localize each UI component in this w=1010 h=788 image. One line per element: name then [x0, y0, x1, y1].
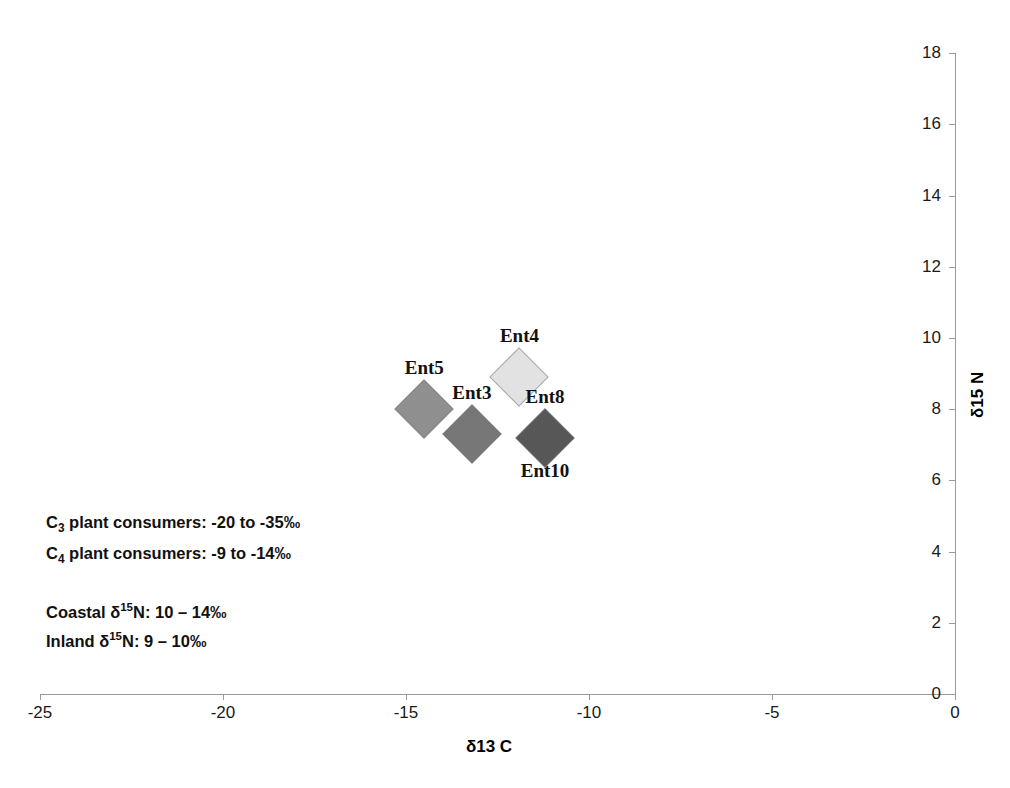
annotation-c3-prefix: C [46, 513, 58, 531]
y-tick-label: 0 [932, 684, 941, 704]
y-tick-mark [949, 694, 955, 695]
data-point-label: Ent5 [405, 357, 444, 379]
scatter-chart: -25-20-15-10-50024681012141618Ent5Ent4En… [0, 0, 1010, 788]
x-axis-line [40, 694, 956, 695]
x-axis-title-text: δ13 C [466, 737, 512, 756]
x-tick-mark [406, 694, 407, 700]
x-tick-label: -20 [211, 703, 236, 723]
annotation-c4-prefix: C [46, 544, 58, 562]
annotation-spacer [46, 573, 300, 595]
x-tick-mark [223, 694, 224, 700]
y-tick-label: 18 [922, 43, 941, 63]
y-tick-mark [949, 196, 955, 197]
annotation-block: C3 plant consumers: -20 to -35‰ C4 plant… [46, 510, 300, 654]
y-tick-label: 4 [932, 542, 941, 562]
x-tick-mark [772, 694, 773, 700]
data-point-label: Ent3 [452, 382, 491, 404]
annotation-c4-subscript: 4 [58, 553, 65, 567]
annotation-inland: Inland δ15N: 9 – 10‰ [46, 624, 300, 654]
y-tick-label: 10 [922, 328, 941, 348]
y-tick-mark [949, 623, 955, 624]
annotation-c4: C4 plant consumers: -9 to -14‰ [46, 541, 300, 572]
data-point-label: Ent8 [526, 386, 565, 408]
y-tick-label: 2 [932, 613, 941, 633]
x-axis-title: δ13 C [0, 737, 1010, 757]
x-tick-label: -10 [577, 703, 602, 723]
y-tick-mark [949, 267, 955, 268]
y-tick-mark [949, 124, 955, 125]
annotation-inland-prefix: Inland δ [46, 632, 109, 650]
data-point-marker [515, 408, 574, 467]
data-point-label: Ent4 [500, 325, 539, 347]
y-tick-label: 16 [922, 114, 941, 134]
x-tick-label: -25 [28, 703, 53, 723]
x-tick-label: 0 [950, 703, 959, 723]
annotation-c3: C3 plant consumers: -20 to -35‰ [46, 510, 300, 541]
y-tick-mark [949, 552, 955, 553]
annotation-inland-rest: N: 9 – 10‰ [122, 632, 206, 650]
x-tick-label: -5 [764, 703, 779, 723]
y-tick-mark [949, 53, 955, 54]
annotation-c4-rest: plant consumers: -9 to -14‰ [65, 544, 291, 562]
data-point-label: Ent10 [521, 460, 570, 482]
x-tick-mark [955, 694, 956, 700]
y-tick-label: 8 [932, 399, 941, 419]
y-axis-line [955, 53, 956, 695]
data-point-marker [442, 404, 501, 463]
y-tick-mark [949, 338, 955, 339]
annotation-c3-rest: plant consumers: -20 to -35‰ [65, 513, 301, 531]
y-axis-title: δ15 N [968, 372, 988, 418]
y-tick-label: 6 [932, 470, 941, 490]
annotation-coastal-rest: N: 10 – 14‰ [133, 602, 227, 620]
annotation-inland-superscript: 15 [109, 630, 122, 642]
y-tick-mark [949, 480, 955, 481]
y-tick-label: 14 [922, 186, 941, 206]
annotation-c3-subscript: 3 [58, 521, 65, 535]
annotation-coastal: Coastal δ15N: 10 – 14‰ [46, 595, 300, 625]
x-tick-mark [40, 694, 41, 700]
annotation-coastal-prefix: Coastal δ [46, 602, 120, 620]
y-tick-label: 12 [922, 257, 941, 277]
x-tick-mark [589, 694, 590, 700]
y-tick-mark [949, 409, 955, 410]
annotation-coastal-superscript: 15 [120, 601, 133, 613]
x-tick-label: -15 [394, 703, 419, 723]
